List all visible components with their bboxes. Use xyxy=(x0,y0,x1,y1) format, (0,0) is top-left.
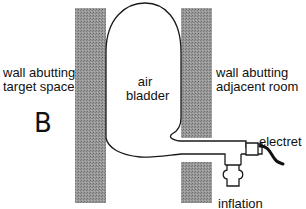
bladder-label: air bladder xyxy=(126,75,164,103)
left-wall-label-line1: wall abutting xyxy=(3,66,75,80)
inflation-valve xyxy=(223,165,243,186)
tube-t-junction xyxy=(225,154,246,165)
right-wall-label-line2: adjacent room xyxy=(216,80,298,94)
inflation-label: inflation xyxy=(218,197,263,209)
left-wall xyxy=(75,8,106,203)
bladder-label-line1: air xyxy=(126,75,164,89)
diagram-graphics xyxy=(0,0,306,209)
bladder-label-line2: bladder xyxy=(126,89,164,103)
electret-microphone xyxy=(246,143,258,155)
left-wall-label: wall abutting target space xyxy=(3,66,75,94)
right-wall-upper xyxy=(181,8,212,138)
diagram-canvas: wall abutting target space air bladder w… xyxy=(0,0,306,209)
tube-lower-edge xyxy=(106,138,225,165)
right-wall-label-line1: wall abutting xyxy=(216,66,298,80)
panel-label: B xyxy=(34,110,52,136)
left-wall-label-line2: target space xyxy=(3,80,75,94)
right-wall-lower xyxy=(181,162,212,203)
electret-label: electret xyxy=(259,135,302,149)
right-wall-label: wall abutting adjacent room xyxy=(216,66,298,94)
